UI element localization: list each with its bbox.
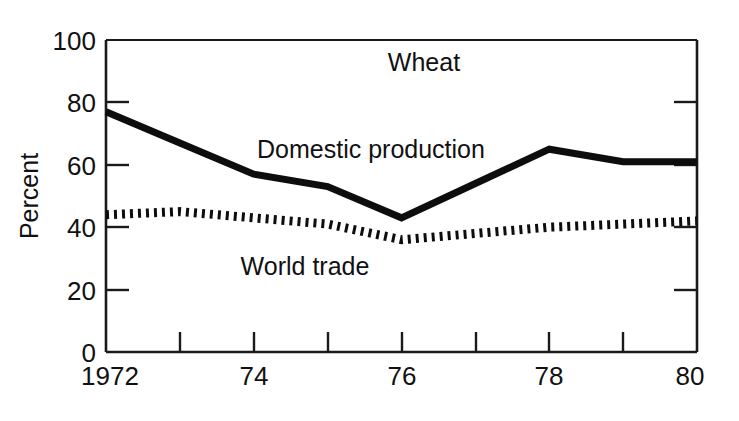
x-tick-label-1972: 1972	[81, 361, 139, 391]
plot-title: Wheat	[388, 48, 460, 76]
y-ticks	[106, 102, 697, 290]
series-label-world-trade: World trade	[241, 252, 370, 280]
y-tick-labels: 100 80 60 40 20 0	[53, 26, 96, 368]
y-axis-title: Percent	[15, 153, 43, 239]
plot-frame	[106, 40, 697, 352]
y-tick-label-100: 100	[53, 26, 96, 56]
x-ticks	[180, 332, 623, 352]
x-tick-label-74: 74	[240, 361, 269, 391]
chart-svg: 100 80 60 40 20 0 1972 74 76 78 80 Perce…	[0, 0, 739, 421]
y-tick-label-20: 20	[67, 276, 96, 306]
x-tick-label-76: 76	[388, 361, 417, 391]
x-tick-label-80: 80	[676, 361, 705, 391]
y-tick-label-80: 80	[67, 88, 96, 118]
x-tick-labels: 1972 74 76 78 80	[81, 361, 704, 391]
series-line-domestic-production	[106, 112, 697, 218]
y-tick-label-60: 60	[67, 151, 96, 181]
y-tick-label-40: 40	[67, 213, 96, 243]
x-tick-label-78: 78	[535, 361, 564, 391]
chart-figure: 100 80 60 40 20 0 1972 74 76 78 80 Perce…	[0, 0, 739, 421]
series-label-domestic-production: Domestic production	[257, 135, 485, 163]
